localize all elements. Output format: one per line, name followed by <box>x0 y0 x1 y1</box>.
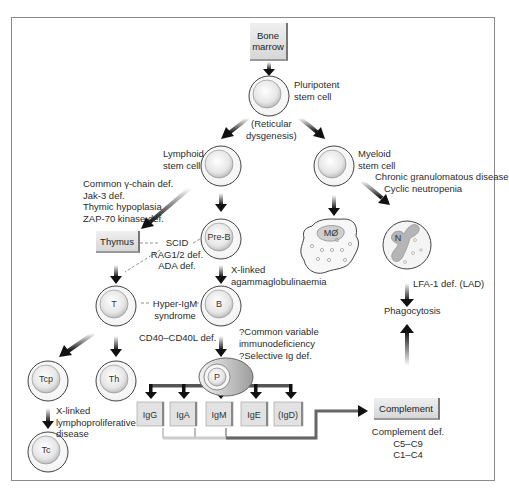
myeloid-label: Myeloidstem cell <box>358 148 395 171</box>
arrow-pluripotent-to-lymphoid <box>221 118 248 139</box>
arrow-lymphoid-to-preb <box>215 193 227 212</box>
cd40-label: CD40–CD40L def. <box>139 332 216 344</box>
complement-box: Complement <box>374 398 440 420</box>
ig-box-igm: IgM <box>206 402 233 426</box>
phagocytosis-label: Phagocytosis <box>384 305 441 317</box>
plasma-label: P <box>214 372 220 382</box>
cvid-label: ?Common variableimmunodeficiency <box>239 326 319 349</box>
selective-ig-label: ?Selective Ig def. <box>239 350 312 362</box>
complement-defects-label: Complement def. C5–C9 C1–C4 <box>370 426 446 461</box>
th-label: Th <box>109 374 120 384</box>
arrow-complement-to-phagocytosis <box>400 324 414 366</box>
t-cell-label: T <box>111 299 117 309</box>
immunoglobulin-boxes: IgG IgA IgM IgE (IgD) <box>137 402 303 426</box>
ig-box-ige: IgE <box>241 402 268 426</box>
arrow-bone-marrow-to-pluripotent <box>263 62 275 76</box>
t-cell: T <box>96 286 136 326</box>
ig-label: IgE <box>247 410 261 420</box>
arrow-tcp-to-tc <box>42 408 54 429</box>
arrow-t-to-th <box>110 336 122 357</box>
myeloid-defects-label: Chronic granulomatous disease Cyclic neu… <box>375 171 509 194</box>
plasma-cell: P <box>199 358 253 396</box>
ig-label: IgM <box>211 410 226 420</box>
arrow-thymus-to-t <box>110 265 122 284</box>
ig-label: IgG <box>143 410 158 420</box>
ig-box-iga: IgA <box>170 402 197 426</box>
tcp-label: Tcp <box>39 374 53 384</box>
tc-label: Tc <box>42 445 52 455</box>
ig-label: (IgD) <box>278 410 298 420</box>
xlp-label: X-linked lymphoproliferative disease <box>56 405 136 440</box>
ig-box-igg: IgG <box>137 402 164 426</box>
myeloid-stem-cell <box>314 146 354 186</box>
pre-b-cell: Pre-B <box>201 219 241 259</box>
b-cell-label: B <box>216 299 222 309</box>
pre-b-label: Pre-B <box>207 232 230 242</box>
pluripotent-stem-cell <box>249 76 289 116</box>
bone-marrow-box: Bone marrow <box>250 23 288 61</box>
lad-label: LFA-1 def. (LAD) <box>413 278 484 290</box>
reticular-dysgenesis-label: (Reticulardysgenesis) <box>246 118 297 141</box>
arrow-pluripotent-to-myeloid <box>300 118 325 139</box>
th-cell: Th <box>96 361 136 401</box>
scid-label: SCID RAG1/2 def. ADA def. <box>149 237 205 272</box>
arrow-preb-to-b <box>215 265 227 284</box>
arrow-t-to-tcp <box>59 333 94 357</box>
arrow-b-to-plasma <box>215 336 227 357</box>
tcp-cell: Tcp <box>28 361 68 401</box>
b-cell: B <box>201 286 241 326</box>
lymphoid-label: Lymphoidstem cell <box>163 148 204 171</box>
lymphoid-stem-cell <box>201 146 241 186</box>
neutrophil: N <box>383 221 431 269</box>
ig-label: IgA <box>176 410 190 420</box>
arrow-myeloid-to-macrophage <box>328 195 340 216</box>
ig-box-igd: (IgD) <box>274 402 303 426</box>
arrow-neutrophil-to-phagocytosis <box>400 283 414 307</box>
pluripotent-label: Pluripotentstem cell <box>294 79 339 102</box>
neutrophil-label: N <box>395 233 402 243</box>
macrophage-label: MØ <box>324 228 339 238</box>
thymus-box: Thymus <box>96 231 140 253</box>
xla-label: X-linkedagammaglobulinaemia <box>231 264 327 287</box>
hyper-igm-label: Hyper-IgMsyndrome <box>145 298 205 321</box>
thymic-defects-label: Common γ-chain def. Jak-3 def. Thymic hy… <box>83 178 173 224</box>
